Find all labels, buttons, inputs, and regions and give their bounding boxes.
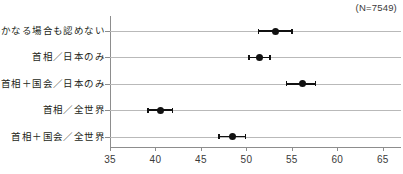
x-axis-tick [155,147,156,151]
category-label: 首相＋国会／全世界 [11,131,105,142]
x-axis-tick-label: 55 [277,154,307,165]
category-label: 首相＋国会／日本のみ [1,78,105,89]
data-point-marker [256,54,263,61]
x-axis-tick-label: 50 [231,154,261,165]
x-axis-tick [292,147,293,151]
gridline [110,84,401,85]
y-axis-tick [105,31,110,32]
data-point-marker [272,28,279,35]
error-bar-cap-high [315,81,316,86]
x-axis-tick [110,147,111,151]
data-point-marker [299,80,306,87]
x-axis-tick-label: 45 [186,154,216,165]
error-bar-cap-low [218,134,219,139]
x-axis-tick [337,147,338,151]
y-axis-tick [105,137,110,138]
y-axis-line [110,16,111,147]
category-label: いかなる場合も認めない [0,25,105,36]
sample-size-annotation: (N=7549) [356,2,397,13]
x-axis-tick [201,147,202,151]
error-bar-cap-high [291,29,292,34]
error-bar-cap-low [286,81,287,86]
category-label: 首相／全世界 [43,104,105,115]
chart-container: (N=7549) 35404550556065 いかなる場合も認めない首相／日本… [0,0,403,174]
error-bar-cap-low [258,29,259,34]
x-axis-tick-label: 35 [95,154,125,165]
error-bar-cap-high [269,55,270,60]
gridline [110,137,401,138]
x-axis-tick [246,147,247,151]
x-axis-tick [383,147,384,151]
y-axis-tick [105,57,110,58]
error-bar-cap-high [245,134,246,139]
plot-area: 35404550556065 [110,16,401,147]
x-axis-tick-label: 40 [140,154,170,165]
x-axis-tick-label: 65 [368,154,398,165]
error-bar-cap-low [248,55,249,60]
data-point-marker [157,107,164,114]
error-bar-cap-low [147,108,148,113]
x-axis-tick-label: 60 [322,154,352,165]
y-axis-tick [105,110,110,111]
data-point-marker [229,133,236,140]
error-bar-cap-high [172,108,173,113]
x-axis-line [110,147,401,148]
y-axis-tick [105,84,110,85]
gridline [110,31,401,32]
category-label: 首相／日本のみ [32,51,105,62]
